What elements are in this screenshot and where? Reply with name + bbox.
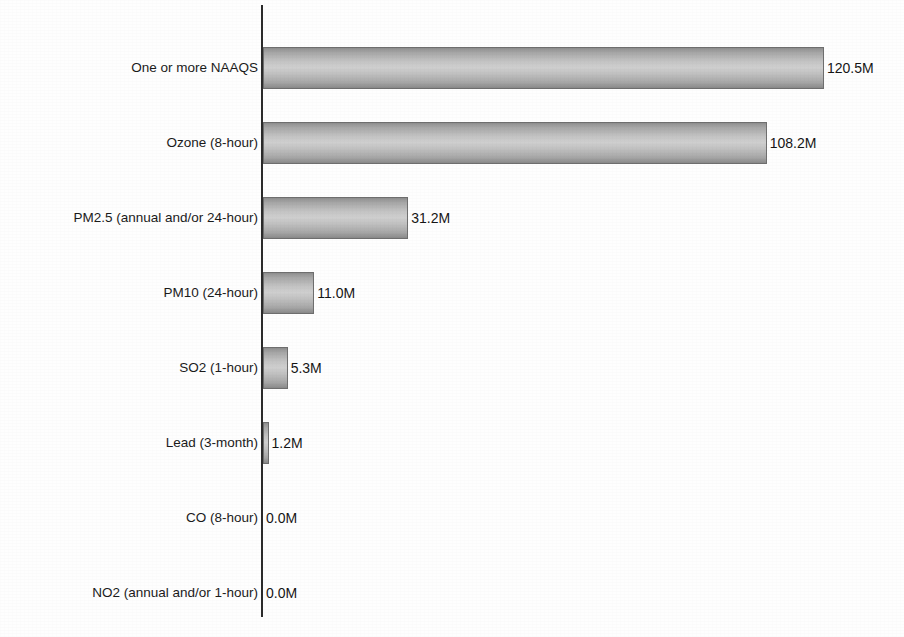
category-label: NO2 (annual and/or 1-hour): [92, 585, 258, 601]
bar[interactable]: [263, 197, 408, 239]
bar-row: Ozone (8-hour)108.2M: [0, 105, 904, 180]
bar-chart: One or more NAAQS120.5MOzone (8-hour)108…: [0, 0, 904, 637]
bar-row: SO2 (1-hour)5.3M: [0, 330, 904, 405]
category-label: One or more NAAQS: [131, 60, 258, 76]
category-label: SO2 (1-hour): [179, 360, 258, 376]
bar-value-label: 0.0M: [266, 585, 297, 601]
bar-value-label: 0.0M: [266, 510, 297, 526]
category-label: Lead (3-month): [166, 435, 258, 451]
bar-value-label: 11.0M: [317, 285, 355, 301]
bar-row: NO2 (annual and/or 1-hour)0.0M: [0, 555, 904, 630]
category-label: Ozone (8-hour): [166, 135, 258, 151]
bar-row: PM10 (24-hour)11.0M: [0, 255, 904, 330]
bar-row: CO (8-hour)0.0M: [0, 480, 904, 555]
bar[interactable]: [263, 347, 288, 389]
bar-value-label: 5.3M: [291, 360, 322, 376]
bar-value-label: 31.2M: [411, 210, 450, 226]
bar-value-label: 1.2M: [272, 435, 303, 451]
bar-value-label: 120.5M: [827, 60, 874, 76]
category-label: PM2.5 (annual and/or 24-hour): [73, 210, 258, 226]
bar[interactable]: [263, 47, 824, 89]
bar-row: Lead (3-month)1.2M: [0, 405, 904, 480]
bar-value-label: 108.2M: [770, 135, 817, 151]
plot-area: One or more NAAQS120.5MOzone (8-hour)108…: [0, 0, 904, 637]
bar-row: One or more NAAQS120.5M: [0, 30, 904, 105]
bar-row: PM2.5 (annual and/or 24-hour)31.2M: [0, 180, 904, 255]
bar[interactable]: [263, 422, 269, 464]
category-label: CO (8-hour): [186, 510, 258, 526]
bar[interactable]: [263, 272, 314, 314]
category-label: PM10 (24-hour): [163, 285, 258, 301]
bar[interactable]: [263, 122, 767, 164]
